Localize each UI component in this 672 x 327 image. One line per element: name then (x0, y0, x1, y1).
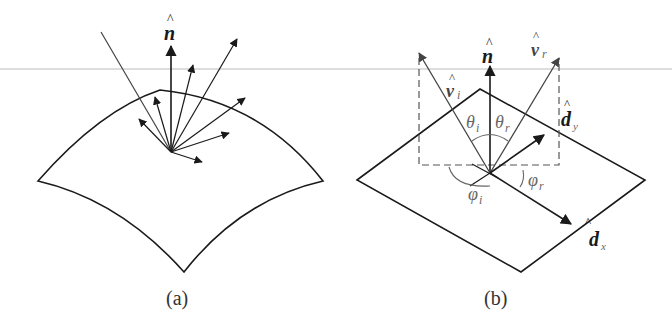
dy-sub: y (572, 120, 578, 132)
dx-label: d (589, 228, 600, 250)
reflection-arrows (139, 39, 245, 162)
caption-a: (a) (166, 287, 188, 310)
theta-r-sub: r (505, 121, 510, 135)
reflected-sub: r (542, 47, 547, 61)
phi-i-sub: i (479, 193, 482, 207)
incident-sub: i (457, 88, 460, 102)
scatter-arrow (171, 152, 202, 162)
scatter-arrow (171, 133, 229, 152)
curved-surface (38, 90, 323, 272)
caption-b: (b) (484, 287, 507, 310)
normal-label: n (482, 45, 493, 67)
theta-i-label: θ (466, 112, 475, 132)
normal-label: n (164, 22, 175, 44)
dy-label: d (561, 108, 572, 130)
projection-box (419, 58, 559, 165)
incident-label: v (446, 81, 455, 101)
phi-r-sub: r (539, 179, 544, 193)
dx-hat: ^ (585, 214, 591, 229)
phi-i-label: φ (468, 184, 478, 204)
theta-r-label: θ (495, 112, 504, 132)
panel-a: ^ n (a) (38, 12, 323, 310)
dx-sub: x (600, 240, 606, 252)
panel-b: ^ n ^ v i ^ v r θ i θ r φ i φ r ^ d y ^ … (357, 28, 645, 310)
figure: ^ n (a) ^ n ^ v i ^ v r θ i θ r φ (0, 0, 672, 327)
theta-i-sub: i (476, 121, 479, 135)
phi-r-arc (520, 170, 524, 187)
scatter-arrow (171, 39, 237, 152)
incident-ray (101, 32, 171, 152)
reflected-label: v (531, 40, 540, 60)
phi-r-label: φ (528, 170, 538, 190)
dy-arrow (490, 135, 544, 173)
